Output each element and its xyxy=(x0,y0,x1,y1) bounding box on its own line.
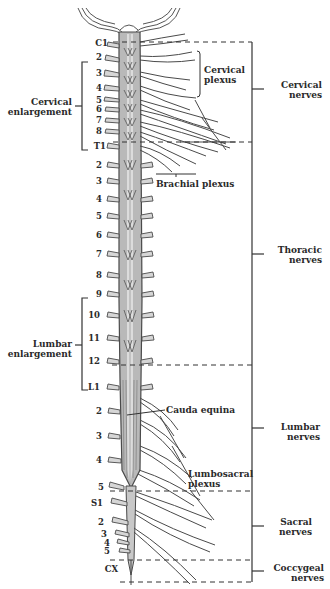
lumbar-nerves-label: Lumbar nerves xyxy=(262,422,320,442)
coccygeal-nerves-line1: Coccygeal xyxy=(262,563,324,573)
lumbosacral-plexus-label: Lumbosacral plexus xyxy=(188,469,253,489)
lumbosacral-plexus-line2: plexus xyxy=(188,479,253,489)
coccygeal-nerves-line2: nerves xyxy=(262,573,324,583)
lumbosacral-plexus-line1: Lumbosacral xyxy=(188,469,253,479)
right-nerve-roots xyxy=(141,162,154,390)
cervical-nerves-line2: nerves xyxy=(262,90,322,100)
segment-label-s2: 2 xyxy=(80,517,104,527)
skull-base-arcs xyxy=(78,8,180,34)
cauda-equina-label: Cauda equina xyxy=(166,405,235,415)
spinal-nerves-diagram: C1 2 3 4 5 6 7 8 T1 2 3 4 5 6 7 8 9 10 1… xyxy=(0,0,330,589)
segment-label-c4: 4 xyxy=(78,83,102,93)
segment-label-c7: 7 xyxy=(78,115,102,125)
segment-label-t1: T1 xyxy=(82,141,106,151)
segment-label-t2: 2 xyxy=(78,160,102,170)
segment-label-l4: 4 xyxy=(78,455,102,465)
segment-label-c3: 3 xyxy=(78,68,102,78)
segment-label-t6: 6 xyxy=(78,230,102,240)
cervical-enlargement-line2: enlargement xyxy=(4,107,72,117)
segment-label-c2: 2 xyxy=(78,52,102,62)
thoracic-nerves-line2: nerves xyxy=(262,255,322,265)
brachial-plexus-brace xyxy=(156,174,196,177)
lumbar-nerves-line1: Lumbar xyxy=(262,422,320,432)
thoracic-nerves-line1: Thoracic xyxy=(262,245,322,255)
cervical-plexus-line2: plexus xyxy=(204,75,245,85)
lumbar-enlargement-line1: Lumbar xyxy=(4,339,72,349)
sacral-nerves-label: Sacral nerves xyxy=(262,517,312,537)
segment-label-s1: S1 xyxy=(79,498,103,508)
segment-label-t10: 10 xyxy=(76,310,100,320)
cervical-enlargement-label: Cervical enlargement xyxy=(4,97,72,117)
lumbar-enlargement-line2: enlargement xyxy=(4,349,72,359)
segment-label-l5: 5 xyxy=(80,482,104,492)
segment-label-cx: CX xyxy=(94,564,118,574)
cervical-plexus-line1: Cervical xyxy=(204,65,245,75)
cervical-nerves-label: Cervical nerves xyxy=(262,80,322,100)
thoracic-nerves-label: Thoracic nerves xyxy=(262,245,322,265)
cervical-nerves-line1: Cervical xyxy=(262,80,322,90)
segment-label-l3: 3 xyxy=(78,431,102,441)
cervical-plexus-label: Cervical plexus xyxy=(204,65,245,85)
segment-label-t5: 5 xyxy=(78,211,102,221)
lumbar-nerves-line2: nerves xyxy=(262,432,320,442)
segment-label-c8: 8 xyxy=(78,126,102,136)
spinal-cord xyxy=(119,32,142,488)
segment-label-t11: 11 xyxy=(76,333,100,343)
segment-label-t8: 8 xyxy=(78,270,102,280)
sacral-nerves-line1: Sacral xyxy=(262,517,312,527)
segment-label-t7: 7 xyxy=(78,249,102,259)
segment-label-s5: 5 xyxy=(86,546,110,556)
lumbar-enlargement-label: Lumbar enlargement xyxy=(4,339,72,359)
segment-label-c1: C1 xyxy=(84,38,108,48)
sacral-nerves-line2: nerves xyxy=(262,527,312,537)
segment-label-t3: 3 xyxy=(78,176,102,186)
segment-label-l2: 2 xyxy=(78,406,102,416)
brachial-plexus-label: Brachial plexus xyxy=(156,179,234,189)
cervical-enlargement-line1: Cervical xyxy=(4,97,72,107)
segment-label-c6: 6 xyxy=(78,104,102,114)
segment-label-l1: L1 xyxy=(76,382,100,392)
segment-label-t4: 4 xyxy=(78,194,102,204)
segment-label-t9: 9 xyxy=(78,289,102,299)
cervical-plexus-brace xyxy=(197,51,200,97)
coccygeal-nerves-label: Coccygeal nerves xyxy=(262,563,324,583)
right-group-bracket xyxy=(252,42,264,582)
cervical-brachial-plexus xyxy=(140,34,236,172)
segment-label-t12: 12 xyxy=(76,356,100,366)
